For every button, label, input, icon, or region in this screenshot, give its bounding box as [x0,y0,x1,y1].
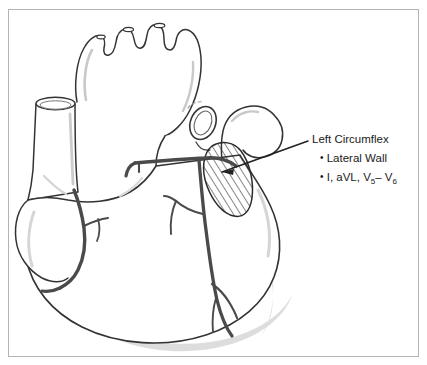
aortic-arch [76,23,201,136]
callout-bullet-label: Lateral Wall [327,152,387,164]
callout-bullet-lateral-wall: • Lateral Wall [320,153,387,165]
callout-bullet-ecg-leads: • I, aVL, V5– V6 [320,172,397,186]
ecg-lead-subscript-6: 6 [393,177,397,186]
heart-anatomy-figure: Left Circumflex • Lateral Wall • I, aVL,… [0,0,427,365]
bullet-marker-icon: • [320,171,324,182]
ecg-lead-range: – V [375,171,392,183]
bullet-marker-icon: • [320,152,324,163]
callout-title: Left Circumflex [312,134,389,146]
ecg-lead-prefix: I, aVL, V [327,171,371,183]
